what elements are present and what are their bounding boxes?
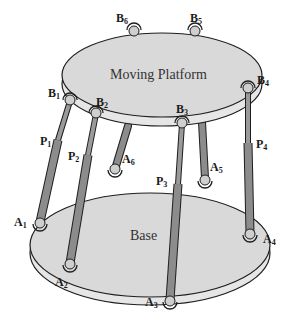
base-label: Base bbox=[130, 228, 157, 243]
label-a5: A5 bbox=[210, 160, 223, 175]
leg-1 bbox=[40, 101, 70, 222]
label-b4: B4 bbox=[257, 73, 269, 88]
leg-5 bbox=[202, 122, 205, 178]
stewart-platform-diagram: Base Moving Platform bbox=[0, 0, 289, 319]
label-b5: B5 bbox=[190, 11, 202, 26]
label-a6: A6 bbox=[122, 152, 135, 167]
label-a4: A4 bbox=[263, 232, 276, 247]
platform-label: Moving Platform bbox=[110, 67, 207, 82]
joint-b3 bbox=[175, 116, 189, 128]
label-b6: B6 bbox=[116, 11, 128, 26]
label-p2: P2 bbox=[68, 149, 79, 164]
label-p1: P1 bbox=[40, 134, 51, 149]
label-p4: P4 bbox=[256, 137, 267, 152]
label-a1: A1 bbox=[14, 215, 27, 230]
diagram-canvas: Base Moving Platform bbox=[0, 0, 289, 319]
joint-a5 bbox=[198, 175, 212, 188]
label-p3: P3 bbox=[156, 174, 167, 189]
leg-4 bbox=[248, 89, 250, 233]
label-b1: B1 bbox=[48, 86, 60, 101]
